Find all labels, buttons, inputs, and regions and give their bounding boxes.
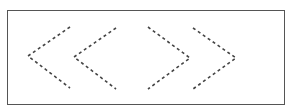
chevron-left-1-icon [28, 27, 70, 88]
chevron-right-2-icon [193, 28, 236, 89]
chevron-left-2-icon [74, 28, 116, 89]
chevrons-canvas [0, 0, 296, 111]
chevron-right-1-icon [148, 27, 190, 89]
